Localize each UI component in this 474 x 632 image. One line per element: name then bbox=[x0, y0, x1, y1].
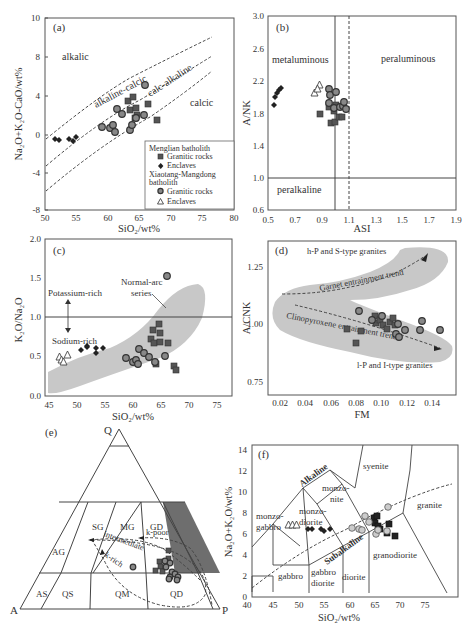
field-ag: AG bbox=[52, 547, 65, 557]
panel-a-x-label: SiO₂/wt% bbox=[118, 223, 160, 234]
arrow-up-icon bbox=[65, 299, 71, 304]
panel-f-y-label: Na₂O+K₂O/wt% bbox=[223, 487, 234, 558]
svg-text:0.7: 0.7 bbox=[289, 215, 301, 225]
svg-text:4: 4 bbox=[243, 550, 248, 560]
panel-b-points bbox=[271, 81, 349, 126]
field-qm: QM bbox=[115, 589, 130, 599]
panel-f-y-ticks: 0 2 4 6 8 10 12 14 bbox=[238, 445, 248, 602]
arrowhead-icon bbox=[138, 536, 144, 540]
svg-text:1.4: 1.4 bbox=[253, 141, 265, 151]
svg-text:70: 70 bbox=[185, 400, 195, 410]
field-qs: QS bbox=[62, 589, 74, 599]
legend-circle-icon bbox=[158, 188, 163, 193]
field-as: AS bbox=[36, 589, 48, 599]
svg-text:0.06: 0.06 bbox=[323, 398, 339, 408]
svg-text:55: 55 bbox=[101, 400, 111, 410]
svg-text:6: 6 bbox=[243, 529, 248, 539]
svg-text:40: 40 bbox=[243, 600, 253, 610]
svg-text:0.6: 0.6 bbox=[253, 205, 265, 215]
normal-arc-pointer bbox=[152, 294, 166, 308]
svg-text:50: 50 bbox=[73, 400, 83, 410]
svg-text:55: 55 bbox=[72, 213, 82, 223]
panel-b-label: (b) bbox=[276, 21, 289, 34]
panel-d: 1.25 1.00 0.75 0.02 0.04 0.06 0.08 0.10 … bbox=[241, 241, 456, 420]
panel-e-label: (e) bbox=[45, 426, 58, 439]
svg-text:0: 0 bbox=[36, 130, 41, 140]
svg-text:0.0: 0.0 bbox=[30, 391, 42, 401]
panel-a-label: (a) bbox=[53, 21, 66, 34]
svg-text:75: 75 bbox=[213, 400, 223, 410]
svg-text:1.5: 1.5 bbox=[396, 215, 408, 225]
svg-text:8: 8 bbox=[36, 52, 41, 62]
svg-text:2: 2 bbox=[243, 571, 248, 581]
svg-text:0.5: 0.5 bbox=[262, 215, 274, 225]
field-granite: granite bbox=[417, 500, 442, 510]
field-alkalic: alkalic bbox=[62, 51, 89, 62]
label-hp-granites: h-P and S-type granites bbox=[307, 246, 386, 256]
vertex-q: Q bbox=[104, 424, 112, 436]
label-k-rich: k-rich bbox=[103, 549, 126, 569]
field-qd: QD bbox=[170, 589, 183, 599]
panel-d-label: (d) bbox=[275, 244, 288, 257]
svg-text:Granitic rocks: Granitic rocks bbox=[167, 152, 213, 161]
label-sodium-rich: Sodium-rich bbox=[52, 336, 97, 346]
field-monzodiorite: monzo- bbox=[299, 506, 327, 516]
field-calc-alkaline: calc-alkaline bbox=[145, 61, 194, 98]
svg-text:2.0: 2.0 bbox=[30, 234, 42, 244]
svg-text:70: 70 bbox=[167, 213, 177, 223]
svg-text:0.9: 0.9 bbox=[316, 215, 328, 225]
svg-text:2.6: 2.6 bbox=[253, 44, 265, 54]
field-peralkaline: peralkaline bbox=[277, 184, 322, 195]
svg-text:0.75: 0.75 bbox=[247, 377, 263, 387]
svg-text:1.5: 1.5 bbox=[30, 273, 42, 283]
svg-text:60: 60 bbox=[346, 600, 356, 610]
svg-text:Enclaves: Enclaves bbox=[167, 161, 196, 170]
panel-c-x-ticks: 45 50 55 60 65 70 75 bbox=[45, 400, 223, 410]
svg-text:0.10: 0.10 bbox=[373, 398, 389, 408]
figure-canvas: 10 8 4 0 -4 -8 50 55 60 65 70 75 80 SiO₂… bbox=[0, 0, 474, 632]
svg-text:60: 60 bbox=[104, 213, 114, 223]
vertex-a: A bbox=[10, 604, 18, 616]
svg-text:nite: nite bbox=[330, 494, 344, 504]
svg-text:2.2: 2.2 bbox=[253, 76, 264, 86]
panel-b-y-label: A/NK bbox=[241, 100, 252, 126]
svg-text:50: 50 bbox=[41, 213, 51, 223]
arrow-down-icon bbox=[65, 328, 71, 333]
field-sg: SG bbox=[92, 522, 104, 532]
label-potassium-rich: Potassium-rich bbox=[48, 288, 102, 298]
panel-f-label: (f) bbox=[258, 448, 269, 461]
svg-text:12: 12 bbox=[238, 466, 247, 476]
svg-text:4: 4 bbox=[36, 91, 41, 101]
field-subalkaline: Subalkaline bbox=[322, 532, 365, 567]
field-alkaline-calcic: alkaline-calcic bbox=[92, 72, 149, 109]
panel-d-x-label: FM bbox=[354, 409, 370, 420]
field-diorite: diorite bbox=[342, 572, 366, 582]
svg-text:diorite: diorite bbox=[299, 517, 323, 527]
field-gabbro-diorite: gabbro bbox=[311, 567, 336, 577]
svg-text:Granitic rocks: Granitic rocks bbox=[167, 187, 213, 196]
svg-text:0.12: 0.12 bbox=[399, 398, 415, 408]
svg-text:Enclaves: Enclaves bbox=[167, 197, 196, 206]
svg-text:45: 45 bbox=[45, 400, 55, 410]
panel-f-x-label: SiO₂/wt% bbox=[318, 612, 360, 623]
field-metaluminous: metaluminous bbox=[272, 54, 329, 65]
panel-a-x-ticks: 50 55 60 65 70 75 80 bbox=[41, 213, 240, 223]
legend: Menglian batholith Granitic rocks Enclav… bbox=[145, 141, 234, 209]
svg-text:1.0: 1.0 bbox=[253, 173, 265, 183]
panel-c-x-label: SiO₂/wt% bbox=[112, 411, 154, 422]
field-calcic: calcic bbox=[190, 97, 214, 108]
svg-text:3.0: 3.0 bbox=[253, 11, 265, 21]
svg-text:70: 70 bbox=[396, 600, 406, 610]
arrowhead-icon bbox=[88, 538, 94, 542]
panel-b-frame bbox=[268, 16, 456, 210]
panel-d-x-ticks: 0.02 0.04 0.06 0.08 0.10 0.12 0.14 bbox=[272, 398, 440, 408]
svg-text:-4: -4 bbox=[33, 168, 41, 178]
panel-c-label: (c) bbox=[53, 244, 66, 257]
svg-text:55: 55 bbox=[320, 600, 330, 610]
field-granodiorite: granodiorite bbox=[373, 550, 417, 560]
svg-text:65: 65 bbox=[371, 600, 381, 610]
svg-text:0.14: 0.14 bbox=[424, 398, 440, 408]
svg-text:10: 10 bbox=[31, 13, 41, 23]
panel-b-y-ticks: 3.0 2.6 2.2 1.8 1.4 1.0 0.6 bbox=[253, 11, 265, 215]
panel-a-points bbox=[52, 82, 160, 144]
